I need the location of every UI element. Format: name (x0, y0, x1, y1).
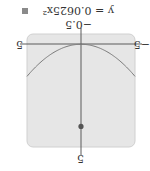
x-min-label: −5 (134, 39, 150, 50)
rotated-graph-figure: 5 −5 5 −0.5 y = 0.0625x² (0, 0, 150, 171)
legend-swatch (22, 8, 28, 14)
x-max-label: 5 (16, 39, 23, 50)
focus-point (78, 124, 83, 129)
y-max-label: 5 (77, 153, 84, 164)
y-min-label: −0.5 (65, 19, 92, 30)
equation-label: y = 0.0625x² (42, 5, 114, 16)
